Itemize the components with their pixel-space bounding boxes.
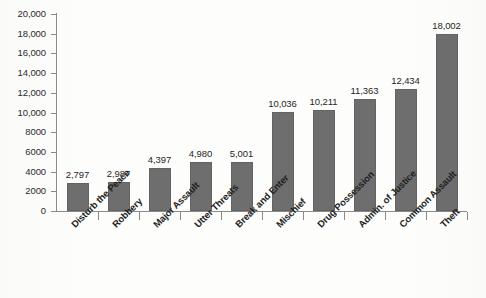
y-axis-tick-label: 18,000 (0, 28, 46, 39)
y-axis-tick-label: 12,000 (0, 87, 46, 98)
x-axis-tick (467, 212, 468, 220)
x-axis-tick (139, 212, 140, 220)
bar-group: 10,211 (303, 14, 344, 211)
y-axis-tick-label: 16,000 (0, 47, 46, 58)
y-axis-tick-label: 6000 (0, 146, 46, 157)
x-axis-tick (262, 212, 263, 220)
x-axis-tick (344, 212, 345, 220)
bar-value-label: 12,434 (391, 75, 419, 86)
bar-value-label: 4,980 (189, 148, 212, 159)
bar-value-label: 5,001 (230, 148, 253, 159)
bar-value-label: 4,397 (148, 154, 171, 165)
bar-value-label: 10,211 (310, 96, 338, 107)
bar-value-label: 11,363 (351, 85, 379, 96)
y-axis-tick-label: 0 (0, 205, 46, 216)
y-axis-tick-label: 2000 (0, 185, 46, 196)
bar-group: 2,797 (57, 14, 98, 211)
bar-value-label: 2,797 (66, 169, 89, 180)
y-axis-tick-label: 10,000 (0, 107, 46, 118)
bar-group: 4,397 (139, 14, 180, 211)
y-axis-tick-label: 4000 (0, 166, 46, 177)
y-axis-tick-label: 8000 (0, 126, 46, 137)
bar-value-label: 10,036 (268, 98, 296, 109)
x-axis-tick (98, 212, 99, 220)
y-axis-tick (51, 211, 57, 212)
x-axis-tick (221, 212, 222, 220)
bar[interactable] (313, 110, 335, 211)
y-axis-tick-label: 14,000 (0, 67, 46, 78)
x-axis-tick (426, 212, 427, 220)
bar-group: 5,001 (221, 14, 262, 211)
x-axis-tick (385, 212, 386, 220)
bar-chart: 20,00018,00016,00014,00012,00010,0008000… (0, 0, 486, 298)
y-axis-tick-label: 20,000 (0, 8, 46, 19)
bar-value-label: 18,002 (432, 20, 460, 31)
bar[interactable] (272, 112, 294, 211)
x-axis-tick (180, 212, 181, 220)
bar-group: 4,980 (180, 14, 221, 211)
x-axis-tick (303, 212, 304, 220)
